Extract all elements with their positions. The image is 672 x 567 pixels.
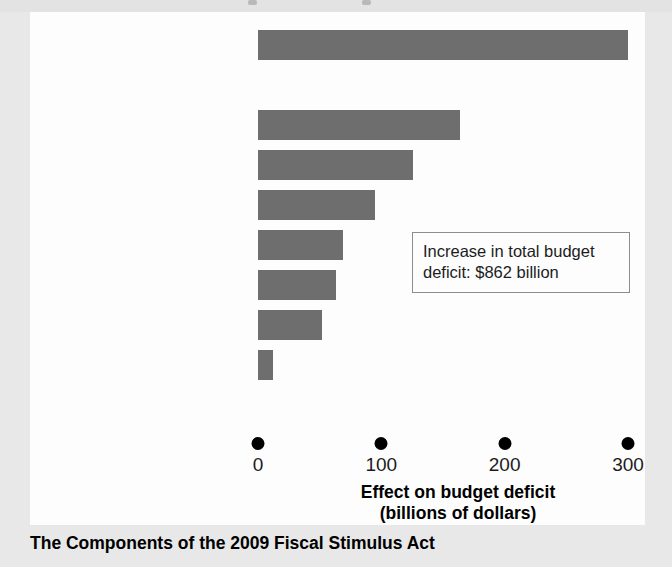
tick-label-100: 100 [365,454,397,476]
bar-other [258,350,273,380]
bar-health-care [258,230,343,260]
bar-state-and-local-aid [258,110,460,140]
x-axis: 0100200300 [30,437,645,482]
bar-protecting-the-vulnerable [258,190,375,220]
tick-label-200: 200 [489,454,521,476]
figure-panel: Tax cutsSpending increasesState and loca… [30,12,645,525]
annotation-line2: deficit: $862 billion [423,262,619,283]
page-bleed-above-figure [0,0,672,12]
x-axis-title-line2: (billions of dollars) [258,503,658,524]
bar-energy [258,310,322,340]
x-axis-title-line1: Effect on budget deficit [258,482,658,503]
tick-dot-100 [375,437,388,450]
tick-dot-0 [252,437,265,450]
x-axis-title: Effect on budget deficit (billions of do… [258,482,658,524]
bar-infrastructure-and-science [258,150,413,180]
bar-education-and-training [258,270,336,300]
annotation-callout: Increase in total budget deficit: $862 b… [412,232,630,293]
tick-dot-200 [498,437,511,450]
annotation-line1: Increase in total budget [423,241,619,262]
bar-tax-cuts [258,30,628,60]
tick-label-300: 300 [612,454,644,476]
tick-label-0: 0 [253,454,264,476]
tick-dot-300 [622,437,635,450]
figure-caption: The Components of the 2009 Fiscal Stimul… [30,533,435,554]
